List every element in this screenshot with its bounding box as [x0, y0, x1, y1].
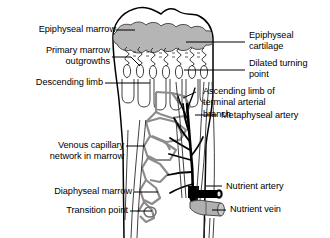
label-dilated-turning-point: Dilated turning point: [249, 58, 329, 81]
label-epiphyseal-cartilage: Epiphyseal cartilage: [249, 30, 329, 53]
label-transition-point: Transition point: [4, 205, 128, 216]
label-nutrient-vein: Nutrient vein: [230, 204, 320, 215]
leader-ascending-limb: [183, 92, 196, 98]
epiphyseal-cartilage-band: [113, 22, 215, 53]
label-nutrient-artery: Nutrient artery: [226, 181, 320, 192]
bone-marrow-vasculature-figure: Epiphyseal marrow Primary marrow outgrow…: [0, 0, 330, 238]
nutrient-artery-vessel: [188, 190, 222, 198]
nutrient-vein-vessel: [190, 200, 224, 216]
label-descending-limb: Descending limb: [4, 77, 103, 88]
label-diaphyseal-marrow: Diaphyseal marrow: [4, 186, 132, 197]
label-venous-capillary-network: Venous capillary network in marrow: [4, 140, 124, 163]
label-primary-marrow-outgrowths: Primary marrow outgrowths: [4, 45, 110, 68]
label-epiphyseal-marrow: Epiphyseal marrow: [4, 24, 116, 35]
label-metaphyseal-artery: Metaphyseal artery: [221, 110, 330, 121]
